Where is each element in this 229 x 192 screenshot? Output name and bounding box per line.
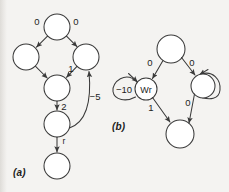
edge-a-lower-to-right bbox=[69, 72, 89, 129]
edge-b-wr-to-bottom bbox=[153, 98, 171, 123]
edge-label-a-right-middle: 1 bbox=[68, 63, 73, 74]
edge-label-a-top-right: 0 bbox=[73, 16, 78, 27]
edge-label-a-lower-right: −5 bbox=[90, 91, 101, 102]
edge-label-a-middle-lower: 2 bbox=[61, 101, 66, 112]
node-a-lower[interactable] bbox=[44, 111, 70, 137]
edge-label-b-top-wr: 0 bbox=[147, 57, 152, 68]
edge-label-b-top-right: 0 bbox=[189, 57, 194, 68]
edge-label-a-lower-bottom: r bbox=[63, 136, 66, 146]
edge-a-top-to-right bbox=[67, 36, 78, 47]
edge-b-top-to-wr bbox=[153, 61, 164, 79]
edge-label-b-right-bottom: 0 bbox=[185, 97, 190, 108]
edge-a-top-to-left bbox=[37, 36, 48, 47]
panel-b-caption: (b) bbox=[112, 121, 125, 132]
edge-label-b-wr-self-loop: −10 bbox=[116, 84, 132, 95]
edge-label-b-wr-bottom: 1 bbox=[148, 102, 153, 113]
panel-a-graph bbox=[13, 14, 99, 179]
node-a-left[interactable] bbox=[13, 44, 39, 70]
node-b-top[interactable] bbox=[157, 35, 185, 63]
node-b-bottom[interactable] bbox=[166, 120, 194, 148]
edge-a-left-to-middle bbox=[36, 66, 48, 78]
node-label-b-wr: Wr bbox=[140, 85, 151, 95]
node-a-middle[interactable] bbox=[44, 75, 70, 101]
node-a-bottom[interactable] bbox=[44, 153, 70, 179]
edge-label-a-top-left: 0 bbox=[34, 16, 39, 27]
panel-a-caption: (a) bbox=[13, 167, 26, 178]
figure-diagram-canvas: 0 0 1 2 −5 r 0 0 1 0 −10 Wr bbox=[0, 0, 229, 192]
figure-page: 0 0 1 2 −5 r 0 0 1 0 −10 Wr (a) (b) bbox=[0, 0, 229, 192]
